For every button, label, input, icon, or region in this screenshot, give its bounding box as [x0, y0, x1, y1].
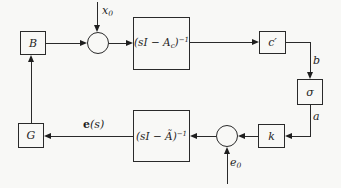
block-plant-transfer-function: (sI − Ac)−1 — [133, 17, 190, 70]
wire-top-sum-to-plant — [109, 43, 127, 44]
signal-label-e0: e0 — [230, 157, 241, 170]
block-observer-transfer-function: (sI − Ã)−1 — [133, 110, 190, 162]
arrowhead-into-bottom-sum-bottom — [224, 147, 230, 154]
wire-B-to-top-sum — [46, 43, 81, 44]
block-G-label: G — [27, 130, 36, 141]
wire-e0-input — [227, 153, 228, 184]
block-B: B — [20, 31, 46, 55]
arrowhead-into-c-prime — [252, 39, 259, 45]
arrowhead-into-observer — [190, 133, 197, 139]
signal-label-a: a — [313, 111, 320, 122]
block-c-prime: c′ — [259, 31, 286, 54]
block-diagram: B (sI − Ac)−1 c′ σ k (sI − Ã)−1 G — [0, 0, 341, 188]
arrowhead-into-bottom-sum-right — [238, 133, 245, 139]
block-sigma-label: σ — [306, 87, 314, 98]
block-B-label: B — [29, 38, 37, 49]
signal-label-x0: x0 — [102, 5, 113, 18]
arrowhead-into-top-sum-left — [80, 40, 87, 46]
arrowhead-into-B — [28, 55, 34, 62]
arrowhead-into-G — [44, 133, 51, 139]
wire-c-prime-to-corner — [286, 42, 311, 43]
wire-sigma-to-corner — [310, 105, 311, 137]
wire-k-to-bottom-sum — [244, 136, 258, 137]
block-G: G — [18, 123, 44, 148]
summing-junction-bottom — [216, 125, 238, 147]
arrowhead-into-plant — [126, 40, 133, 46]
arrowhead-into-k — [285, 133, 292, 139]
wire-bottom-sum-to-observer — [196, 136, 216, 137]
arrowhead-into-top-sum-top — [94, 25, 100, 32]
block-observer-label: (sI − Ã)−1 — [136, 131, 187, 142]
wire-plant-to-c-prime — [190, 42, 253, 43]
block-plant-label: (sI − Ac)−1 — [134, 37, 189, 50]
block-k-label: k — [268, 131, 275, 142]
wire-corner-to-k — [291, 136, 311, 137]
signal-label-b: b — [313, 55, 320, 66]
wire-corner-to-sigma — [310, 42, 311, 73]
summing-junction-top — [87, 32, 109, 54]
block-k: k — [258, 124, 285, 148]
arrowhead-into-sigma — [307, 72, 313, 79]
wire-x0-input — [97, 2, 98, 26]
block-c-prime-label: c′ — [268, 37, 277, 48]
wire-G-to-B — [31, 61, 32, 123]
signal-label-es: e(s) — [83, 119, 104, 130]
block-sigma: σ — [297, 79, 323, 105]
wire-observer-to-G — [50, 136, 133, 137]
